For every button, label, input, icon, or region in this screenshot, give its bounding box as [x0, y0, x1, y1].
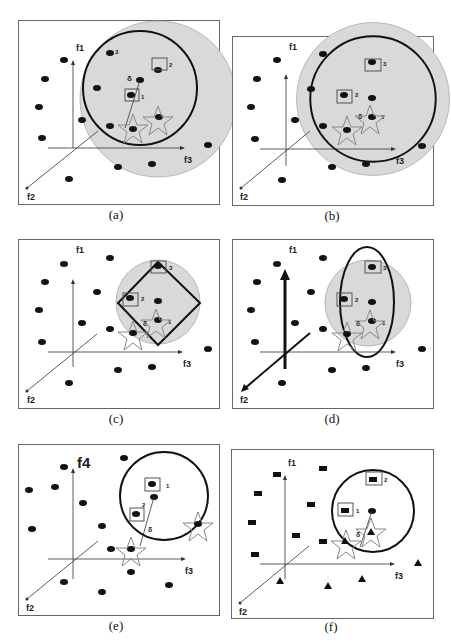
- panel-b-plot: f1 f3 f2 3 2 1 δ: [232, 36, 434, 206]
- caption-d: (d): [312, 411, 352, 427]
- axis-label-f1: f1: [76, 43, 84, 53]
- axis-label-f3: f3: [183, 359, 191, 369]
- panel-a: f1 f3 f2 1 2 3 δ (a): [18, 20, 220, 205]
- caption-c: (c): [96, 411, 136, 427]
- axis-label-f1: f1: [289, 245, 297, 255]
- axis-label-f4: f4: [77, 454, 91, 471]
- panel-b: f1 f3 f2 3 2 1 δ (b): [232, 36, 434, 206]
- panel-e-plot: f4 f3 f2 1 2 δ: [18, 444, 220, 616]
- panel-c: f1 f3 f2 3 2 1 δ (c): [18, 239, 220, 409]
- delta-label: δ: [148, 526, 152, 533]
- panel-e: f4 f3 f2 1 2 δ (e): [18, 444, 220, 616]
- panel-f-plot: f1 f3 f2 2 1 δ: [231, 449, 434, 619]
- axis-label-f3: f3: [185, 566, 193, 576]
- panel-a-plot: f1 f3 f2 1 2 3 δ: [18, 20, 220, 205]
- axis-label-f2: f2: [26, 603, 34, 613]
- axis-label-f2: f2: [27, 192, 35, 202]
- axis-label-f3: f3: [184, 155, 192, 165]
- axis-label-f3: f3: [395, 571, 403, 581]
- caption-b: (b): [312, 208, 352, 224]
- panel-f: f1 f3 f2 2 1 δ (f): [231, 449, 434, 619]
- panel-c-plot: f1 f3 f2 3 2 1 δ: [18, 239, 220, 409]
- axis-label-f1: f1: [76, 245, 84, 255]
- panel-d-plot: f1 f3 f2 3 2 1 δ: [232, 239, 434, 409]
- delta-label: δ: [127, 74, 132, 83]
- axis-label-f3: f3: [396, 156, 404, 166]
- panel-d: f1 f3 f2 3 2 1 δ (d): [232, 239, 434, 409]
- caption-a: (a): [96, 207, 136, 223]
- axis-label-f2: f2: [240, 192, 248, 202]
- axis-label-f2: f2: [240, 395, 248, 405]
- axis-label-f2: f2: [239, 607, 247, 617]
- axis-label-f1: f1: [288, 458, 296, 468]
- axis-label-f2: f2: [27, 395, 35, 405]
- caption-e: (e): [96, 618, 136, 634]
- axis-label-f3: f3: [396, 359, 404, 369]
- axis-label-f1: f1: [289, 42, 297, 52]
- caption-f: (f): [311, 619, 351, 635]
